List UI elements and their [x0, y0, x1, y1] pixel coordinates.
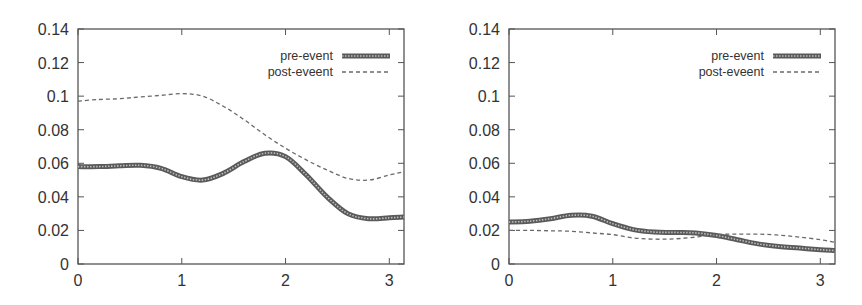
legend-label: post-eveent	[699, 65, 765, 79]
legend-label: post-eveent	[268, 65, 334, 79]
y-tick-label: 0.1	[47, 88, 69, 105]
y-tick-label: 0.04	[469, 189, 500, 206]
x-tick-label: 1	[177, 272, 186, 289]
y-tick: 0.04	[38, 189, 404, 206]
x-tick-label: 2	[281, 272, 290, 289]
legend: pre-eventpost-eveent	[268, 49, 390, 79]
y-tick: 0.08	[38, 122, 404, 139]
y-tick-label: 0.08	[469, 122, 500, 139]
y-tick-label: 0.12	[469, 55, 500, 72]
x-tick: 3	[385, 29, 394, 289]
legend-item-pre-event: pre-event	[280, 49, 390, 63]
x-tick-label: 3	[385, 272, 394, 289]
legend-item-post-event: post-eveent	[699, 65, 821, 79]
y-tick: 0.06	[38, 155, 404, 172]
right-chart-panel: 00.020.040.060.080.10.120.140123pre-even…	[431, 0, 862, 305]
y-tick: 0.06	[469, 155, 835, 172]
x-tick-label: 0	[505, 272, 514, 289]
left-line-chart: 00.020.040.060.080.10.120.140123pre-even…	[0, 0, 431, 305]
y-tick: 0.1	[478, 88, 835, 105]
y-tick-label: 0.02	[469, 222, 500, 239]
y-tick-label: 0.12	[38, 55, 69, 72]
y-tick-label: 0.04	[38, 189, 69, 206]
plot-frame	[78, 29, 404, 264]
x-tick: 1	[177, 29, 186, 289]
y-tick-label: 0.06	[469, 155, 500, 172]
x-tick-label: 0	[74, 272, 83, 289]
legend-item-pre-event: pre-event	[711, 49, 821, 63]
right-line-chart: 00.020.040.060.080.10.120.140123pre-even…	[431, 0, 862, 305]
pre-event-line	[509, 215, 835, 251]
y-tick-label: 0	[60, 256, 69, 273]
pre-event-line	[78, 153, 404, 219]
left-chart-panel: 00.020.040.060.080.10.120.140123pre-even…	[0, 0, 431, 305]
legend-item-post-event: post-eveent	[268, 65, 390, 79]
y-tick: 0.1	[47, 88, 404, 105]
y-tick-label: 0.1	[478, 88, 500, 105]
plot-frame	[509, 29, 835, 264]
y-tick-label: 0.14	[469, 21, 500, 38]
legend-label: pre-event	[280, 49, 333, 63]
x-tick-label: 1	[608, 272, 617, 289]
legend: pre-eventpost-eveent	[699, 49, 821, 79]
legend-label: pre-event	[711, 49, 764, 63]
y-tick-label: 0.14	[38, 21, 69, 38]
x-tick-label: 2	[712, 272, 721, 289]
y-tick: 0.04	[469, 189, 835, 206]
x-tick: 1	[608, 29, 617, 289]
y-tick-label: 0.08	[38, 122, 69, 139]
x-tick-label: 3	[816, 272, 825, 289]
y-tick-label: 0.06	[38, 155, 69, 172]
y-tick: 0.08	[469, 122, 835, 139]
y-tick-label: 0	[491, 256, 500, 273]
y-tick: 0.02	[38, 222, 404, 239]
y-tick-label: 0.02	[38, 222, 69, 239]
